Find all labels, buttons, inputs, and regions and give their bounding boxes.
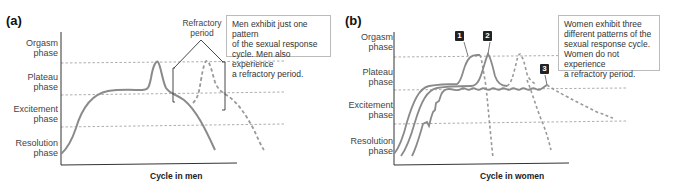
panel-men: (a) Orgasm phase Plateau phase Excitemen… [0, 0, 337, 184]
pattern-1-curve [394, 55, 480, 154]
x-axis-label-women: Cycle in women [480, 171, 544, 181]
note-line: cycle. Men also experience [232, 49, 325, 69]
men-response-curve [61, 62, 215, 154]
x-axis-label-men: Cycle in men [150, 171, 202, 181]
pattern-marker-1: 1 [455, 31, 464, 41]
pattern-marker-2: 2 [483, 31, 492, 41]
pattern-marker-3: 3 [540, 64, 549, 74]
refractory-period-label: Refractory period [174, 18, 230, 38]
note-line: different patterns of the [564, 29, 654, 39]
note-line: a refractory period. [232, 69, 325, 79]
refractory-brackets [173, 40, 225, 110]
pattern-2-second-orgasm [507, 54, 535, 86]
note-line: Men exhibit just one pattern [232, 19, 325, 39]
annotation-line: Refractory [174, 18, 230, 28]
note-line: Women do not experience [564, 49, 654, 69]
marker-leaders [464, 42, 547, 85]
pattern-3-curve [412, 85, 547, 156]
axes [61, 32, 237, 165]
women-note-box: Women exhibit three different patterns o… [558, 15, 660, 71]
men-note-box: Men exhibit just one pattern of the sexu… [226, 15, 331, 57]
panel-women: (b) Orgasm phase Plateau phase Excitemen… [337, 0, 677, 184]
axes [394, 32, 569, 165]
annotation-line: period [174, 28, 230, 38]
pattern-2-curve [401, 54, 507, 156]
note-line: sexual response cycle. [564, 39, 654, 49]
note-line: Women exhibit three [564, 19, 654, 29]
pattern-3-resolution [547, 85, 613, 118]
note-line: of the sexual response [232, 39, 325, 49]
note-line: a refractory period. [564, 69, 654, 79]
